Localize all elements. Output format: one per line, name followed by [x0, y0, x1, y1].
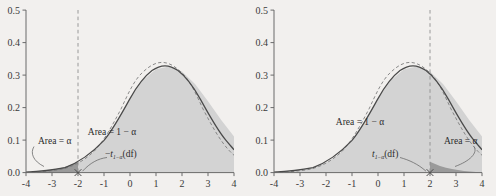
- chart-panel-right: 0.0 0.1 0.2 0.3 0.4 0.5 -4: [248, 0, 496, 196]
- y-tick-label: 0.4: [8, 37, 21, 48]
- y-tick-labels-left: 0.0 0.1 0.2 0.3 0.4 0.5: [8, 5, 21, 178]
- y-tick-label: 0.2: [8, 102, 21, 113]
- x-ticks-left: [26, 173, 234, 177]
- x-tick-label: -4: [270, 178, 278, 189]
- body-area-label-right: Area = 1 − α: [336, 117, 384, 127]
- x-tick-label: -3: [48, 178, 56, 189]
- x-tick-label: 1: [402, 178, 407, 189]
- x-tick-label: 2: [428, 178, 433, 189]
- y-ticks-right: [271, 10, 275, 173]
- tail-label-leader-left: [32, 147, 44, 167]
- y-tick-label: 0.0: [8, 167, 21, 178]
- x-ticks-right: [274, 173, 482, 177]
- y-tick-labels-right: 0.0 0.1 0.2 0.3 0.4 0.5: [256, 5, 269, 178]
- x-tick-label: 2: [180, 178, 185, 189]
- critical-label-suffix: (df): [384, 149, 398, 160]
- y-tick-label: 0.5: [8, 5, 21, 16]
- y-tick-label: 0.4: [256, 37, 269, 48]
- y-tick-label: 0.3: [256, 70, 269, 81]
- y-tick-label: 0.3: [8, 70, 21, 81]
- x-tick-labels-left: -4 -3 -2 -1 0 1 2 3 4: [22, 178, 237, 189]
- x-tick-label: 0: [128, 178, 133, 189]
- x-tick-label: -4: [22, 178, 30, 189]
- y-tick-label: 0.5: [256, 5, 269, 16]
- tail-area-label-left: Area = α: [38, 136, 72, 146]
- y-ticks-left: [23, 10, 27, 173]
- x-tick-label: 1: [154, 178, 159, 189]
- x-tick-label: 4: [232, 178, 237, 189]
- tail-area-label-right: Area = α: [444, 136, 478, 146]
- x-tick-label: 3: [454, 178, 459, 189]
- x-tick-label: 4: [480, 178, 485, 189]
- body-area-label-left: Area = 1 − α: [88, 127, 136, 137]
- figure-container: 0.0 0.1 0.2 0.3 0.4 0.5 -4: [0, 0, 496, 196]
- x-tick-label: -1: [100, 178, 108, 189]
- critical-label-suffix: (df): [123, 149, 137, 160]
- x-tick-label: -2: [74, 178, 82, 189]
- x-tick-label: 3: [206, 178, 211, 189]
- y-tick-label: 0.1: [8, 135, 21, 146]
- chart-panel-left: 0.0 0.1 0.2 0.3 0.4 0.5 -4: [0, 0, 248, 196]
- y-tick-label: 0.0: [256, 167, 269, 178]
- x-tick-label: -3: [296, 178, 304, 189]
- region-left-tail: [26, 162, 78, 173]
- y-tick-label: 0.1: [256, 135, 269, 146]
- y-tick-label: 0.2: [256, 102, 269, 113]
- x-tick-label: -2: [322, 178, 330, 189]
- x-tick-label: 0: [376, 178, 381, 189]
- x-tick-labels-right: -4 -3 -2 -1 0 1 2 3 4: [270, 178, 485, 189]
- x-tick-label: -1: [348, 178, 356, 189]
